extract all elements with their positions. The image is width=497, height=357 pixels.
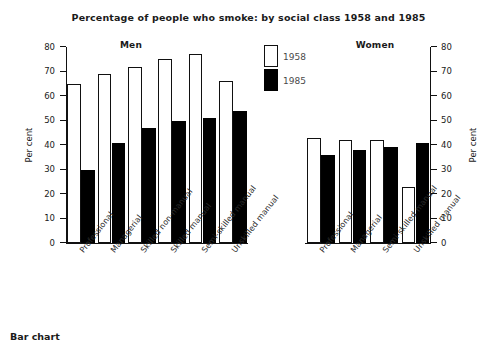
bar bbox=[67, 84, 81, 243]
y-tick-label-left-40: 40 bbox=[33, 141, 55, 150]
bar-chart-figure: Percentage of people who smoke: by socia… bbox=[0, 0, 497, 357]
y-tick-right-30 bbox=[431, 169, 437, 170]
bar-group bbox=[66, 47, 96, 243]
y-tick-label-right-60: 60 bbox=[441, 92, 463, 101]
y-tick-label-left-70: 70 bbox=[33, 67, 55, 76]
bar bbox=[172, 121, 186, 244]
y-tick-label-left-0: 0 bbox=[33, 239, 55, 248]
legend-swatch-1985 bbox=[264, 69, 278, 91]
bar bbox=[203, 118, 217, 243]
legend-label-1985: 1985 bbox=[283, 76, 306, 86]
legend-label-1958: 1958 bbox=[283, 52, 306, 62]
y-tick-right-60 bbox=[431, 95, 437, 96]
y-tick-right-80 bbox=[431, 46, 437, 47]
chart-title: Percentage of people who smoke: by socia… bbox=[0, 12, 497, 23]
legend-swatch-1958 bbox=[264, 45, 278, 67]
y-axis-right-label: Per cent bbox=[468, 115, 478, 175]
y-tick-right-70 bbox=[431, 71, 437, 72]
y-tick-right-40 bbox=[431, 144, 437, 145]
y-tick-label-right-30: 30 bbox=[441, 165, 463, 174]
y-tick-label-right-70: 70 bbox=[441, 67, 463, 76]
plot-area-men bbox=[66, 47, 248, 243]
bar-group bbox=[305, 47, 337, 243]
y-tick-label-left-80: 80 bbox=[33, 43, 55, 52]
bar bbox=[142, 128, 156, 243]
y-tick-label-left-20: 20 bbox=[33, 190, 55, 199]
y-tick-label-right-50: 50 bbox=[441, 116, 463, 125]
bar bbox=[307, 138, 321, 243]
y-tick-label-left-50: 50 bbox=[33, 116, 55, 125]
figure-caption: Bar chart bbox=[10, 331, 60, 342]
y-tick-label-right-0: 0 bbox=[441, 239, 463, 248]
y-axis-left-label: Per cent bbox=[24, 115, 34, 175]
y-tick-label-right-40: 40 bbox=[441, 141, 463, 150]
y-tick-label-right-80: 80 bbox=[441, 43, 463, 52]
y-tick-right-0 bbox=[431, 242, 437, 243]
y-tick-right-50 bbox=[431, 120, 437, 121]
bar-group bbox=[368, 47, 400, 243]
bar-group bbox=[127, 47, 157, 243]
bar bbox=[233, 111, 247, 243]
y-tick-label-left-30: 30 bbox=[33, 165, 55, 174]
bar bbox=[112, 143, 126, 243]
y-tick-label-left-10: 10 bbox=[33, 214, 55, 223]
y-tick-label-left-60: 60 bbox=[33, 92, 55, 101]
